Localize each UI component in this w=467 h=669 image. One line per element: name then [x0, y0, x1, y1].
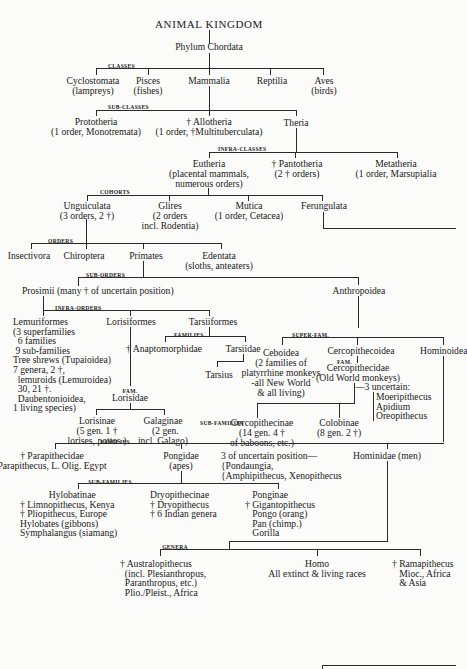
connector: [86, 243, 87, 249]
connector: [148, 68, 149, 75]
node-mutica: Mutica(1 order, Cetacea): [215, 201, 284, 221]
node-pongidae: Pongidae(apes): [163, 451, 199, 471]
connector: [55, 443, 56, 449]
connector: [55, 443, 444, 444]
connector: [209, 53, 210, 69]
node-eutheria: Eutheria(placental mammals,numerous orde…: [169, 159, 249, 189]
rank-label-families-hominoidea: FAMILIES: [100, 437, 130, 447]
node-unguiculata: Unguiculata(3 orders, 2 †): [60, 201, 114, 221]
connector: [420, 549, 421, 556]
connector: [160, 549, 421, 550]
connector: [96, 68, 324, 69]
node-lorisiformes: Lorisiformes: [106, 317, 156, 327]
node-pisces: Pisces(fishes): [134, 76, 163, 96]
node-lorisidae: Lorisidae: [112, 393, 148, 403]
node-colobinae: Colobinae(8 gen. 2 †): [317, 418, 361, 438]
rank-label-classes: CLASSES: [108, 61, 135, 71]
rank-label-genera: GENERA: [162, 542, 188, 552]
node-ponginae: Ponginae † Gigantopithecus Pongo (orang)…: [245, 490, 315, 538]
node-prototheria: Prototheria(1 order, Monotremata): [51, 117, 141, 137]
node-australopithecus: † Australopithecus (incl. Plesianthropus…: [120, 559, 206, 597]
node-lemuriformes: Lemuriformes (3 superfamilies 6 families…: [13, 317, 111, 413]
kingdom-title: ANIMAL KINGDOM: [155, 19, 263, 29]
connector: [443, 356, 444, 442]
connector: [78, 483, 279, 484]
node-tarsiiformes: Tarsiiformes: [189, 317, 237, 327]
connector: [317, 549, 318, 556]
rank-label-sub-orders: SUB-ORDERS: [86, 270, 125, 280]
node-uncertain-hominoid: 3 of uncertain position—{Pondaungia,{Amp…: [221, 451, 342, 481]
connector: [217, 361, 244, 362]
connector: [96, 409, 165, 410]
connector: [257, 403, 355, 404]
connector: [165, 336, 166, 342]
node-ramapithecus: † Ramapithecus Mioc., Africa & Asia: [392, 559, 454, 588]
node-glires: Glires(2 ordersincl. Rodentia): [141, 201, 198, 231]
rank-label-sub-families-pongidae: SUB-FAMILIES: [88, 477, 132, 487]
connector: [387, 443, 388, 449]
connector: [181, 443, 182, 449]
node-uncertain-cerco-list: Moeripithecus Apidium Oreopithecus: [373, 392, 431, 421]
connector: [217, 361, 218, 367]
connector: [208, 188, 209, 195]
node-dryopithecinae: Dryopithecinae † Dryopithecus † 6 Indian…: [150, 490, 217, 519]
node-galaginae: Galaginae (2 gen.incl. Galago): [138, 416, 188, 446]
node-ceboidea: Ceboidea (2 families of platyrrhine monk…: [241, 348, 320, 398]
connector: [87, 195, 323, 196]
connector: [96, 68, 97, 75]
rank-label-super-fam: SUPER-FAM.: [292, 330, 329, 340]
node-ferungulata: Ferungulata: [301, 201, 347, 211]
connector: [229, 541, 388, 542]
connector: [229, 541, 230, 549]
connector: [357, 337, 358, 345]
connector: [387, 461, 388, 541]
node-primates: Primates: [129, 251, 163, 261]
connector: [160, 549, 161, 556]
phylum-node: Phylum Chordata: [175, 42, 242, 52]
node-pantotheria: † Pantotheria(2 † orders): [272, 159, 323, 179]
node-reptilia: Reptilia: [257, 76, 287, 86]
connector: [31, 243, 222, 244]
node-hylobatinae: Hylobatinae † Limnopithecus, Kenya † Pli…: [20, 490, 117, 538]
node-hominoidea: Hominoidea: [420, 346, 467, 356]
node-insectivora: Insectivora: [8, 251, 51, 261]
connector: [323, 68, 324, 75]
node-theria: Theria: [283, 118, 308, 128]
connector: [323, 228, 456, 229]
node-edentata: Edentata(sloths, anteaters): [185, 251, 253, 271]
connector: [143, 261, 144, 278]
rank-label-families-tarsii: FAMILIES: [174, 330, 204, 340]
connector: [43, 296, 44, 310]
connector: [78, 277, 359, 278]
connector: [358, 296, 359, 328]
connector: [43, 310, 210, 311]
connector: [270, 68, 271, 75]
connector: [209, 68, 210, 75]
connector: [358, 277, 359, 285]
connector: [221, 243, 222, 249]
connector: [209, 152, 398, 153]
connector: [282, 337, 283, 345]
connector: [209, 327, 210, 336]
node-hominidae: Hominidae (men): [353, 451, 421, 461]
frame-edge: [322, 665, 456, 666]
connector: [143, 243, 144, 249]
node-prosimii: Prosimii (many † of uncertain position): [22, 286, 174, 296]
node-cyclostomata: Cyclostomata(lampreys): [67, 76, 120, 96]
node-metatheria: Metatheria(1 order, Marsupialia: [356, 159, 437, 179]
connector: [181, 471, 182, 483]
connector: [31, 243, 32, 249]
connector: [296, 110, 297, 116]
connector: [257, 403, 258, 418]
connector: [323, 212, 324, 229]
connector: [339, 403, 340, 418]
connector: [165, 336, 246, 337]
connector: [443, 337, 444, 345]
connector: [96, 110, 297, 111]
connector: [209, 86, 210, 110]
node-tarsius: Tarsius: [205, 370, 233, 380]
node-cercopithecidae: Cercopithecidae(Old World monkeys): [316, 363, 400, 383]
node-anthropoidea: Anthropoidea: [333, 286, 386, 296]
node-aves: Aves(birds): [311, 76, 337, 96]
node-homo: HomoAll extinct & living races: [268, 559, 366, 579]
